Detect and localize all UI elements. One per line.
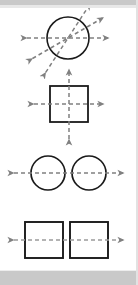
- symmetry-diagram-canvas: [0, 0, 138, 285]
- top-border-band-highlight: [0, 5, 138, 8]
- bottom-border-band: [0, 271, 138, 285]
- right-border-edge: [136, 0, 138, 285]
- symmetry-figure: [0, 0, 138, 285]
- center-point: [67, 37, 69, 39]
- figure-background: [0, 0, 138, 285]
